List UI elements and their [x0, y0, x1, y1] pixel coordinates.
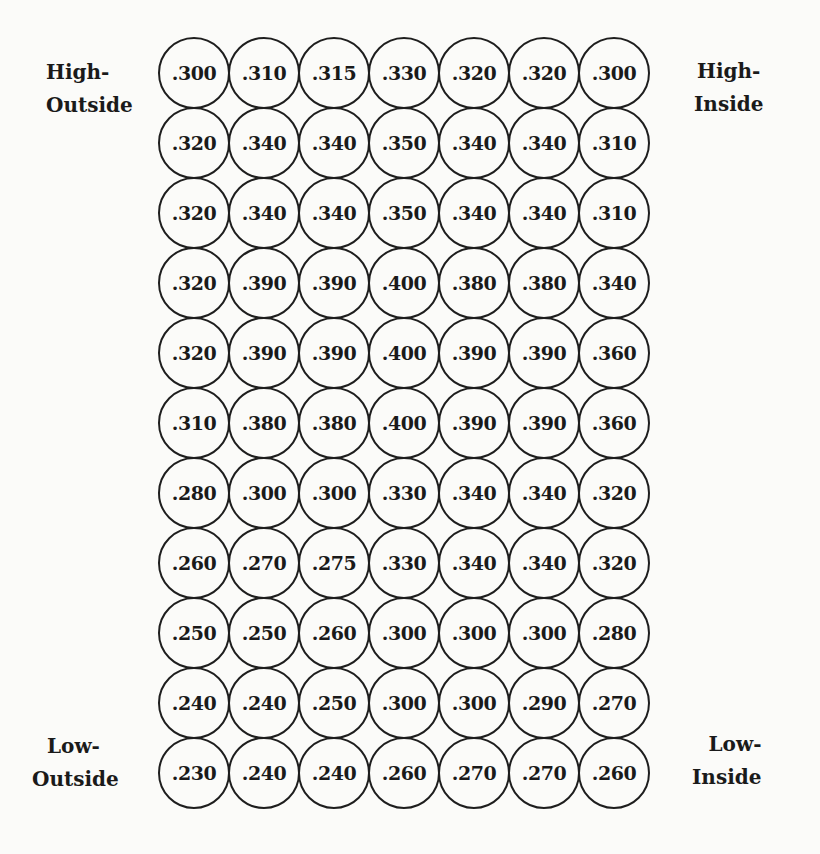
zone-cell: .290	[509, 668, 579, 738]
zone-circle-value: .240	[228, 737, 300, 809]
zone-cell: .270	[509, 738, 579, 808]
zone-cell: .320	[159, 248, 229, 318]
zone-circle-value: .260	[578, 737, 650, 809]
zone-cell: .300	[509, 598, 579, 668]
zone-row: .230.240.240.260.270.270.260	[159, 738, 649, 808]
zone-cell: .280	[579, 598, 649, 668]
zone-cell: .240	[159, 668, 229, 738]
zone-cell: .400	[369, 388, 439, 458]
zone-circle-value: .330	[368, 527, 440, 599]
zone-circle-value: .340	[228, 177, 300, 249]
zone-circle-value: .390	[438, 387, 510, 459]
label-low-outside: Low- Outside	[32, 730, 119, 796]
zone-cell: .310	[229, 38, 299, 108]
zone-circle-value: .400	[368, 317, 440, 389]
zone-cell: .360	[579, 388, 649, 458]
zone-circle-value: .270	[578, 667, 650, 739]
zone-row: .240.240.250.300.300.290.270	[159, 668, 649, 738]
strike-zone-grid: .300.310.315.330.320.320.300.320.340.340…	[159, 38, 649, 808]
zone-cell: .300	[439, 668, 509, 738]
zone-cell: .320	[159, 318, 229, 388]
zone-circle-value: .350	[368, 177, 440, 249]
zone-circle-value: .390	[298, 247, 370, 319]
zone-cell: .340	[439, 178, 509, 248]
zone-circle-value: .320	[508, 37, 580, 109]
zone-circle-value: .230	[158, 737, 230, 809]
label-line: Inside	[692, 761, 761, 794]
zone-circle-value: .390	[228, 247, 300, 319]
zone-circle-value: .300	[158, 37, 230, 109]
zone-circle-value: .240	[298, 737, 370, 809]
zone-circle-value: .340	[228, 107, 300, 179]
zone-cell: .300	[439, 598, 509, 668]
zone-circle-value: .300	[368, 667, 440, 739]
zone-cell: .330	[369, 528, 439, 598]
zone-cell: .340	[439, 458, 509, 528]
zone-cell: .300	[229, 458, 299, 528]
zone-cell: .390	[229, 248, 299, 318]
zone-circle-value: .310	[578, 107, 650, 179]
zone-circle-value: .390	[298, 317, 370, 389]
zone-circle-value: .340	[438, 457, 510, 529]
label-low-inside: Low- Inside	[692, 728, 761, 794]
zone-cell: .340	[299, 178, 369, 248]
zone-cell: .270	[579, 668, 649, 738]
zone-circle-value: .260	[298, 597, 370, 669]
zone-cell: .300	[159, 38, 229, 108]
zone-circle-value: .390	[228, 317, 300, 389]
zone-cell: .380	[509, 248, 579, 318]
label-line: High-	[46, 56, 133, 89]
zone-cell: .260	[369, 738, 439, 808]
zone-circle-value: .320	[578, 527, 650, 599]
zone-cell: .330	[369, 458, 439, 528]
zone-cell: .340	[509, 458, 579, 528]
zone-circle-value: .300	[578, 37, 650, 109]
zone-cell: .390	[509, 388, 579, 458]
zone-cell: .300	[579, 38, 649, 108]
zone-circle-value: .390	[508, 317, 580, 389]
zone-cell: .400	[369, 318, 439, 388]
zone-row: .250.250.260.300.300.300.280	[159, 598, 649, 668]
zone-cell: .380	[229, 388, 299, 458]
zone-circle-value: .270	[438, 737, 510, 809]
zone-circle-value: .300	[438, 597, 510, 669]
zone-circle-value: .340	[508, 527, 580, 599]
zone-circle-value: .400	[368, 387, 440, 459]
zone-circle-value: .250	[298, 667, 370, 739]
zone-cell: .390	[439, 318, 509, 388]
zone-circle-value: .310	[578, 177, 650, 249]
label-line: Low-	[32, 730, 119, 763]
zone-cell: .350	[369, 178, 439, 248]
zone-cell: .240	[299, 738, 369, 808]
zone-cell: .380	[439, 248, 509, 318]
label-line: Low-	[692, 728, 761, 761]
zone-cell: .340	[299, 108, 369, 178]
zone-circle-value: .300	[438, 667, 510, 739]
zone-cell: .380	[299, 388, 369, 458]
zone-cell: .360	[579, 318, 649, 388]
zone-cell: .320	[159, 108, 229, 178]
zone-circle-value: .280	[578, 597, 650, 669]
zone-circle-value: .300	[228, 457, 300, 529]
zone-cell: .400	[369, 248, 439, 318]
zone-cell: .340	[509, 178, 579, 248]
zone-circle-value: .250	[158, 597, 230, 669]
zone-circle-value: .400	[368, 247, 440, 319]
zone-circle-value: .320	[158, 107, 230, 179]
zone-row: .300.310.315.330.320.320.300	[159, 38, 649, 108]
zone-cell: .390	[439, 388, 509, 458]
zone-cell: .340	[229, 178, 299, 248]
zone-circle-value: .320	[158, 247, 230, 319]
zone-circle-value: .340	[438, 177, 510, 249]
zone-row: .320.340.340.350.340.340.310	[159, 178, 649, 248]
zone-circle-value: .240	[158, 667, 230, 739]
zone-circle-value: .340	[438, 527, 510, 599]
zone-cell: .390	[299, 248, 369, 318]
zone-cell: .240	[229, 668, 299, 738]
zone-row: .320.340.340.350.340.340.310	[159, 108, 649, 178]
zone-row: .310.380.380.400.390.390.360	[159, 388, 649, 458]
zone-cell: .330	[369, 38, 439, 108]
zone-cell: .275	[299, 528, 369, 598]
zone-circle-value: .390	[438, 317, 510, 389]
zone-circle-value: .380	[508, 247, 580, 319]
